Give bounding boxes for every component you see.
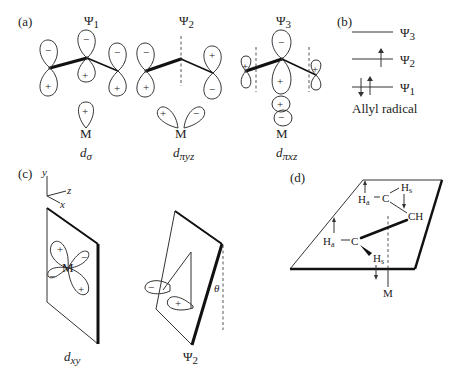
sign: +: [82, 69, 88, 81]
up-arrow-head: [363, 180, 367, 185]
psi1-group: Ψ1 − + − + − + + M dσ: [40, 13, 126, 162]
psi2-caption: Ψ2: [183, 349, 198, 366]
bond: [390, 188, 399, 193]
sign: −: [278, 111, 284, 123]
sign: +: [78, 283, 84, 295]
p-orbital-lobe: [311, 75, 321, 90]
ha-bottom-label: Ha: [323, 235, 335, 249]
theta-label: θ: [214, 282, 220, 294]
sign: −: [45, 44, 51, 56]
d-xy-caption: dxy: [64, 349, 80, 366]
z-axis-label: z: [66, 184, 72, 196]
c-top-label: C: [382, 192, 389, 204]
sign: −: [143, 46, 149, 58]
electron-up-arrow-head: [378, 48, 384, 53]
ch-label: CH: [408, 210, 423, 222]
sign: −: [278, 36, 284, 48]
p-orbital-lobe: [241, 71, 251, 88]
level-psi3-label: Ψ3: [400, 25, 416, 42]
plane-edge: [415, 180, 442, 269]
sign: −: [49, 270, 55, 282]
y-axis-label: y: [41, 166, 47, 178]
panel-c: (c) y z x + − − + M dxy θ − + Ψ2: [18, 166, 223, 366]
sign: +: [277, 98, 283, 110]
sign: +: [82, 105, 88, 117]
electron-down-arrow-head: [358, 92, 364, 97]
panel-a: (a) Ψ1 − + − + − + + M dσ: [18, 13, 321, 162]
d-pi-yz-label: dπyz: [173, 145, 195, 162]
down-arrow-head: [374, 275, 378, 280]
bond: [181, 59, 213, 73]
d-pi-xz-label: dπxz: [276, 145, 298, 162]
sign: +: [45, 80, 51, 92]
d-sigma-label: dσ: [80, 145, 93, 162]
sign: −: [83, 33, 89, 45]
hs-bottom-label: Hs: [373, 252, 384, 266]
sign: +: [57, 243, 63, 255]
panel-b: (b) Ψ3 Ψ2 Ψ1 Allyl radical: [337, 14, 418, 116]
x-axis: [47, 196, 60, 203]
psi2-group: Ψ2 − + + − + − M dπyz: [137, 13, 221, 162]
electron-up-arrow-head: [367, 76, 373, 81]
panel-d: (d) M Ha C Hs CH Ha C Hs: [290, 170, 442, 299]
sign: −: [114, 46, 120, 58]
allyl-radical-caption: Allyl radical: [352, 101, 418, 116]
panel-b-label: (b): [337, 14, 352, 29]
sign: +: [242, 60, 248, 72]
z-axis: [47, 191, 66, 196]
plane-edge: [47, 208, 98, 244]
bond: [87, 58, 118, 71]
sign: +: [175, 297, 181, 309]
sign: +: [277, 75, 283, 87]
metal-label: M: [276, 126, 288, 141]
sign: −: [209, 83, 215, 95]
sign: −: [81, 251, 87, 263]
metal-label: M: [175, 126, 187, 141]
sign: −: [148, 281, 154, 293]
down-arrow-head: [402, 204, 406, 209]
sign: +: [209, 49, 215, 61]
sign: +: [160, 107, 166, 119]
psi1-label: Ψ1: [84, 13, 99, 30]
plane-edge: [175, 211, 222, 244]
sign: +: [312, 63, 318, 75]
panel-d-label: (d): [290, 170, 305, 185]
sign: +: [114, 82, 120, 94]
wedge-bond: [360, 245, 372, 256]
sign: +: [143, 81, 149, 93]
level-psi2-label: Ψ2: [400, 52, 415, 69]
hs-top-label: Hs: [401, 181, 412, 195]
metal-label: M: [80, 126, 92, 141]
metal-label: M: [383, 287, 393, 299]
c-bottom-label: C: [351, 235, 358, 247]
psi2-label: Ψ2: [179, 13, 194, 30]
sign: −: [193, 107, 199, 119]
panel-c-label: (c): [18, 166, 32, 181]
ha-top-label: Ha: [358, 193, 370, 207]
panel-a-label: (a): [18, 14, 32, 29]
plane-edge: [192, 244, 222, 345]
psi3-label: Ψ3: [276, 13, 292, 30]
psi3-group: Ψ3 + − + + + − M dπxz: [241, 13, 321, 162]
allyl-orbital-diagram: (a) Ψ1 − + − + − + + M dσ: [0, 0, 458, 374]
x-axis-label: x: [59, 198, 65, 210]
level-psi1-label: Ψ1: [400, 80, 415, 97]
metal-label: M: [62, 260, 74, 275]
bond: [361, 220, 407, 238]
